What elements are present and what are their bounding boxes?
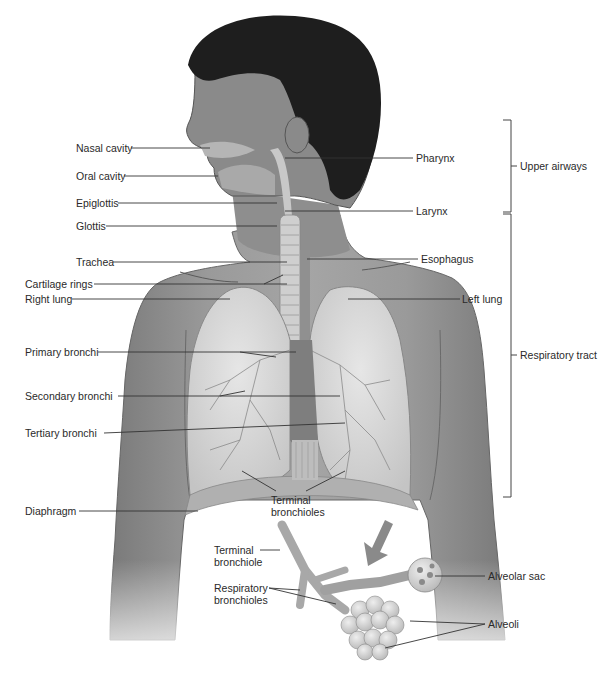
label-respiratory-tract: Respiratory tract (520, 349, 597, 361)
head (187, 15, 381, 215)
label-cartilage-rings: Cartilage rings (25, 278, 93, 290)
label-pharynx: Pharynx (416, 152, 455, 164)
label-right-lung: Right lung (25, 293, 72, 305)
label-upper-airways: Upper airways (520, 160, 587, 172)
label-primary-bronchi: Primary bronchi (25, 346, 99, 358)
label-diaphragm: Diaphragm (25, 505, 76, 517)
label-alveolar-sac: Alveolar sac (488, 570, 545, 582)
label-larynx: Larynx (416, 205, 448, 217)
zoom-arrow-icon (364, 520, 393, 566)
brackets (503, 120, 517, 497)
label-respiratory-bronchioles: Respiratory bronchioles (214, 582, 274, 606)
label-epiglottis: Epiglottis (76, 197, 119, 209)
label-terminal-bronchiole: Terminal bronchiole (214, 544, 274, 568)
label-left-lung: Left lung (462, 293, 502, 305)
label-nasal-cavity: Nasal cavity (76, 142, 133, 154)
label-esophagus: Esophagus (421, 253, 474, 265)
label-tertiary-bronchi: Tertiary bronchi (25, 427, 97, 439)
label-oral-cavity: Oral cavity (76, 170, 126, 182)
label-glottis: Glottis (76, 220, 106, 232)
label-terminal-bronchioles: Terminal bronchioles (271, 494, 341, 518)
label-alveoli: Alveoli (488, 618, 519, 630)
label-trachea: Trachea (76, 256, 114, 268)
label-secondary-bronchi: Secondary bronchi (25, 390, 113, 402)
